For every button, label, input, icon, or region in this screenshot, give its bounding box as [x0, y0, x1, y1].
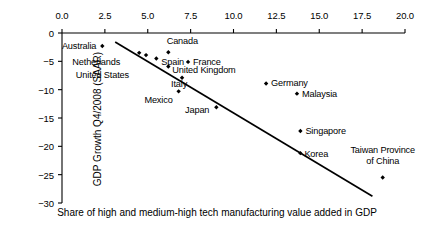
data-point-label: Singapore	[305, 126, 346, 136]
x-tick-label: 2.5	[98, 10, 111, 21]
data-point-label: Malaysia	[302, 89, 337, 99]
data-point-label: Mexico	[144, 95, 172, 105]
data-point-marker	[154, 56, 158, 60]
data-point-marker	[298, 129, 302, 133]
data-point-label: Italy	[171, 79, 187, 89]
x-tick-label: 17.5	[353, 10, 371, 21]
data-point-label: Taiwan Provinceof China	[350, 145, 415, 167]
y-tick-label: −20	[32, 141, 54, 152]
data-point-marker	[176, 89, 180, 93]
data-point-marker	[214, 105, 218, 109]
trend-line	[115, 42, 372, 196]
y-tick-label: −5	[32, 56, 54, 67]
data-point-label: Canada	[167, 36, 198, 46]
plot-area	[0, 0, 430, 238]
y-tick-label: −25	[32, 169, 54, 180]
x-tick-label: 15.0	[310, 10, 328, 21]
y-tick-label: −10	[32, 84, 54, 95]
x-tick-label: 10.0	[224, 10, 242, 21]
y-tick-label: −30	[32, 198, 54, 209]
data-point-marker	[295, 91, 299, 95]
data-point-marker	[381, 175, 385, 179]
x-axis-title: Share of high and medium-high tech manuf…	[52, 206, 382, 219]
data-point-label: United Kingdom	[172, 65, 235, 75]
axes-group	[58, 29, 405, 203]
data-point-label: Korea	[304, 149, 328, 159]
y-tick-label: 0	[32, 28, 54, 39]
y-axis-title: GDP Growth Q4/2008 (SAAR)	[92, 24, 103, 214]
y-tick-label: −15	[32, 113, 54, 124]
trend-line-segment	[115, 42, 372, 196]
data-point-marker	[144, 53, 148, 57]
data-point-label: Germany	[271, 78, 308, 88]
x-tick-label: 12.5	[267, 10, 285, 21]
x-tick-label: 5.0	[141, 10, 154, 21]
scatter-chart: 0.02.55.07.510.012.515.017.520.0 0−5−10−…	[0, 0, 430, 238]
x-tick-label: 7.5	[184, 10, 197, 21]
data-point-label: Japan	[185, 105, 209, 115]
x-tick-label: 20.0	[396, 10, 414, 21]
data-point-marker	[186, 60, 190, 64]
data-point-marker	[264, 81, 268, 85]
data-point-marker	[166, 50, 170, 54]
data-points	[100, 44, 385, 180]
data-point-marker	[137, 51, 141, 55]
x-tick-label: 0.0	[56, 10, 69, 21]
